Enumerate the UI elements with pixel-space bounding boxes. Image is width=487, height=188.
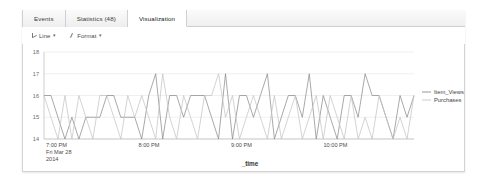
format-dropdown[interactable]: Format ▾ [70,33,102,39]
chart-x-axis-ticks: 7:00 PMFri Mar 2820148:00 PM9:00 PM10:00… [46,142,348,162]
series-line-purchases [44,74,414,139]
y-axis-tick: 14 [33,136,39,142]
tabbar-filler [187,10,465,26]
x-axis-tick-time: 10:00 PM [324,142,348,148]
line-chart[interactable]: 1817161514 7:00 PMFri Mar 2820148:00 PM9… [22,44,465,172]
tab-visualization-label: Visualization [139,15,175,22]
chart-toolbar: Line ▾ Format ▾ [22,27,465,44]
format-label: Format [77,33,96,39]
tab-events[interactable]: Events [22,10,66,27]
chart-legend: Item_ViewsPurchases [422,89,464,103]
x-axis-title: _time [241,160,259,167]
tab-visualization[interactable]: Visualization [128,10,187,27]
visualization-panel-root: Events Statistics (48) Visualization Lin… [0,0,487,188]
chart-type-dropdown[interactable]: Line ▾ [32,33,56,39]
chevron-down-icon: ▾ [53,33,56,38]
x-axis-tick-time: 9:00 PM [231,142,252,148]
x-axis-tick-time: 8:00 PM [139,142,160,148]
format-icon [70,33,75,38]
legend-label[interactable]: Purchases [434,97,461,103]
chart-plot-lines [44,74,414,139]
y-axis-tick: 15 [33,114,39,120]
tab-statistics[interactable]: Statistics (48) [66,10,128,27]
y-axis-tick: 16 [33,93,39,99]
results-tabbar: Events Statistics (48) Visualization [22,10,465,27]
tab-statistics-label: Statistics (48) [77,15,116,22]
chart-container: 1817161514 7:00 PMFri Mar 2820148:00 PM9… [22,44,465,172]
chevron-down-icon: ▾ [99,33,102,38]
tab-events-label: Events [34,15,54,22]
x-axis-tick-date: Fri Mar 28 [46,149,72,155]
legend-label[interactable]: Item_Views [434,89,464,95]
line-chart-icon [32,33,37,38]
y-axis-tick: 17 [33,71,39,77]
chart-y-axis-ticks: 1817161514 [33,49,39,142]
x-axis-tick-year: 2014 [46,156,58,162]
chart-type-label: Line [39,33,50,39]
y-axis-tick: 18 [33,49,39,55]
x-axis-tick-time: 7:00 PM [46,142,67,148]
